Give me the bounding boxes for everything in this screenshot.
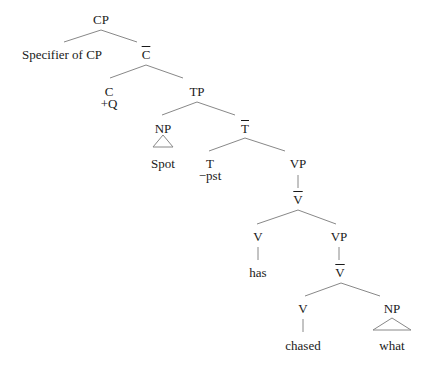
node-v1: V: [253, 230, 262, 243]
node-np-subj: NP: [155, 122, 172, 135]
tree-branch: [257, 210, 298, 224]
node-vp1: VP: [290, 157, 307, 170]
node-t-feat: −pst: [199, 169, 222, 182]
triangle-icon: [153, 135, 173, 147]
node-tp: TP: [189, 85, 204, 98]
tree-branch: [209, 138, 245, 151]
triangle-icon: [373, 318, 411, 330]
node-has: has: [249, 266, 266, 279]
tree-branch: [110, 65, 146, 78]
node-v2: V: [298, 302, 307, 315]
tree-branch: [162, 102, 197, 115]
tree-branch: [305, 283, 341, 296]
node-spec-cp: Specifier of CP: [22, 48, 102, 61]
node-cp: CP: [93, 13, 109, 26]
node-vbar2: V: [335, 266, 344, 279]
node-cbar: C: [142, 48, 151, 61]
node-vp2: VP: [331, 230, 348, 243]
tree-branch: [341, 283, 380, 296]
tree-branch: [197, 102, 235, 115]
tree-branch: [245, 138, 285, 151]
node-vbar1: V: [293, 193, 302, 206]
node-what: what: [379, 339, 404, 352]
tree-branch: [101, 30, 137, 42]
node-np-obj: NP: [384, 302, 401, 315]
node-c-feat: +Q: [101, 97, 118, 110]
tree-branch: [298, 210, 336, 224]
tree-branch: [146, 65, 183, 78]
node-chased: chased: [285, 339, 320, 352]
tree-branch: [64, 30, 101, 42]
node-tbar: T: [241, 122, 249, 135]
node-spot: Spot: [151, 157, 175, 170]
